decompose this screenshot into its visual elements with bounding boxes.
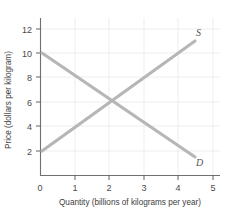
y-tick-label-4: 4: [27, 122, 32, 132]
x-tick-label-5: 5: [210, 183, 215, 193]
x-tick-label-1: 1: [72, 183, 77, 193]
y-axis-ticks: [36, 29, 40, 151]
y-tick-label-6: 6: [27, 98, 32, 108]
y-tick-label-2: 2: [27, 147, 32, 157]
y-tick-label-12: 12: [22, 25, 32, 35]
x-tick-label-3: 3: [141, 183, 146, 193]
y-tick-label-8: 8: [27, 73, 32, 83]
supply-demand-chart: 12 10 8 6 4 2 0 1 2 3 4 5 S D Quantity (…: [0, 0, 228, 211]
y-tick-label-10: 10: [22, 49, 32, 59]
demand-curve-label: D: [195, 157, 204, 168]
demand-curve: [42, 53, 195, 157]
x-tick-label-4: 4: [175, 183, 180, 193]
x-axis-title: Quantity (billions of kilograms per year…: [59, 198, 201, 207]
supply-curve-label: S: [196, 27, 201, 38]
chart-canvas: 12 10 8 6 4 2 0 1 2 3 4 5 S D Quantity (…: [0, 0, 228, 211]
y-axis-title: Price (dollars per kilogram): [4, 51, 13, 149]
x-tick-label-2: 2: [106, 183, 111, 193]
supply-curve: [42, 41, 195, 151]
x-tick-label-0: 0: [37, 183, 42, 193]
